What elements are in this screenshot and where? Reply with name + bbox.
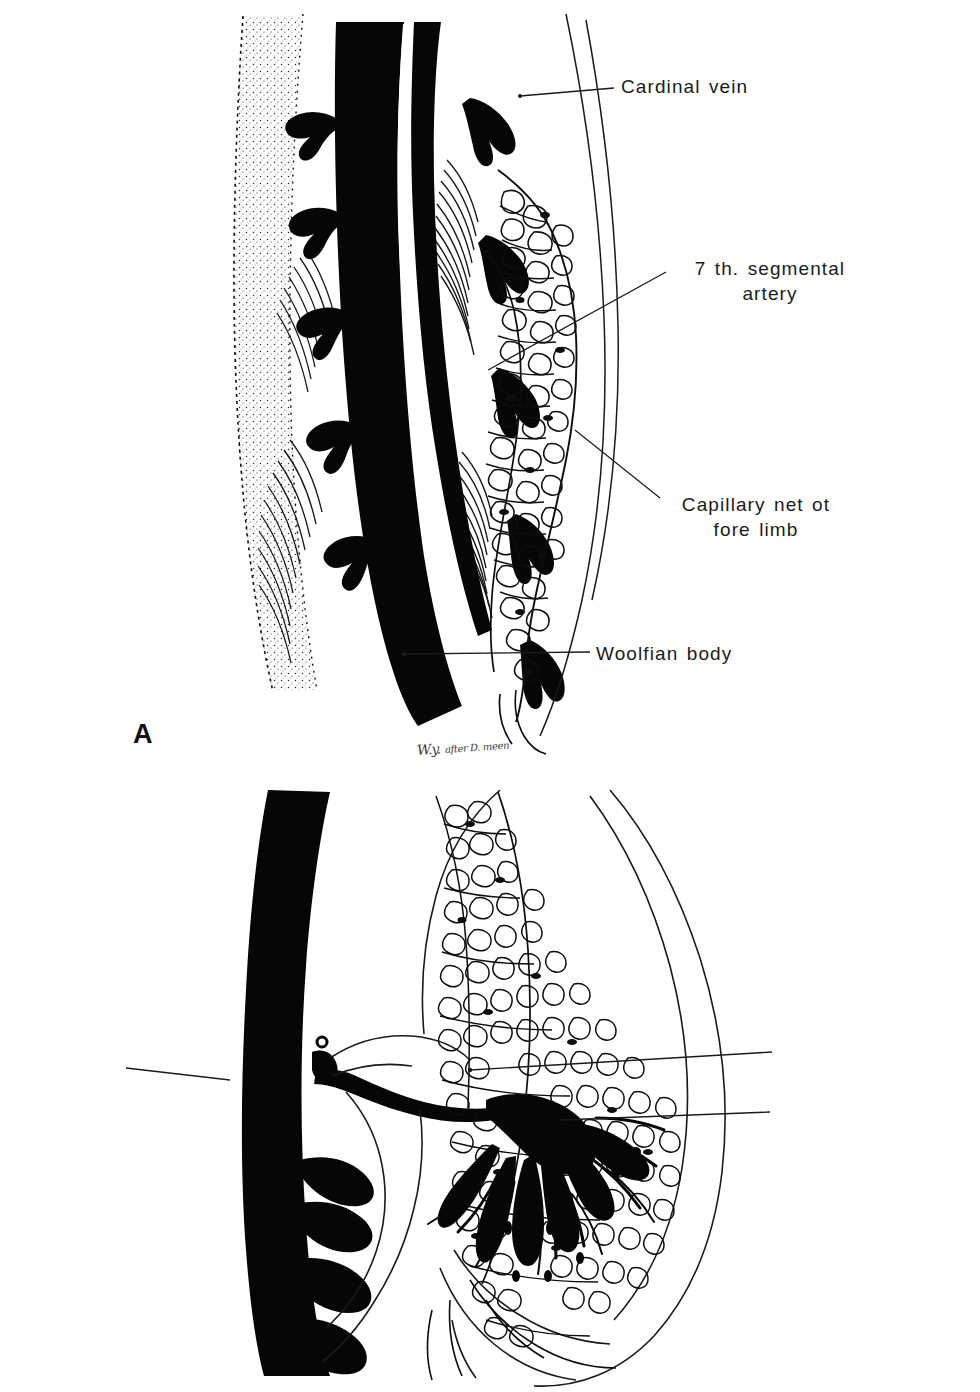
panel-a: Cardinal vein 7 th. segmental artery Cap… (0, 0, 980, 780)
anatomical-figure: Cardinal vein 7 th. segmental artery Cap… (0, 0, 980, 1392)
panel-letter-a: A (133, 719, 153, 750)
label-capillary-net: Capillary net ot fore limb (666, 492, 846, 542)
label-segmental-artery: 7 th. segmental artery (672, 256, 868, 306)
panel-a-drawing (0, 0, 980, 780)
signature-initials-a: W.y. (416, 740, 440, 758)
label-woolfian-body: Woolfian body (596, 641, 732, 666)
panel-b-drawing (0, 780, 980, 1392)
label-cardinal-vein-a: Cardinal vein (621, 74, 748, 99)
panel-b: Cardinal vein Subclavian artery Ɛ vein C… (0, 780, 980, 1392)
